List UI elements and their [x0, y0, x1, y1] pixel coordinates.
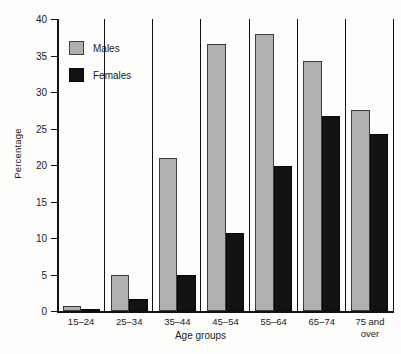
y-tick-mark: [51, 56, 57, 57]
legend-swatch-males-icon: [69, 41, 84, 55]
bar-males: [63, 306, 82, 311]
x-axis-title: Age groups: [0, 330, 401, 341]
bar-females: [370, 134, 389, 311]
group-separator: [297, 19, 298, 311]
x-tick-label: 65–74: [298, 316, 346, 328]
bar-males: [255, 34, 274, 311]
bar-males: [351, 110, 370, 311]
group-separator: [152, 19, 153, 311]
legend-label-females: Females: [93, 70, 131, 81]
legend-swatch-females-icon: [69, 68, 84, 82]
y-axis-line: [57, 19, 59, 311]
bar-males: [111, 275, 130, 312]
bar-females: [274, 166, 293, 311]
y-tick-mark: [51, 311, 57, 312]
legend: Males Females: [69, 41, 131, 95]
y-tick-mark: [51, 165, 57, 166]
group-separator: [200, 19, 201, 311]
y-tick-label: 40: [7, 14, 47, 25]
bar-females: [226, 233, 245, 311]
x-tick-label: 35–44: [153, 316, 201, 328]
bar-females: [177, 275, 196, 311]
x-tick-label: 15–24: [57, 316, 105, 328]
y-tick-label: 20: [7, 160, 47, 171]
legend-item-females: Females: [69, 68, 131, 82]
legend-label-males: Males: [93, 43, 120, 54]
y-tick-mark: [51, 19, 57, 20]
y-tick-mark: [51, 275, 57, 276]
x-tick-label: 55–64: [250, 316, 298, 328]
bar-males: [207, 44, 226, 311]
group-separator: [249, 19, 250, 311]
bar-females: [81, 309, 100, 311]
y-tick-label: 0: [7, 306, 47, 317]
x-tick-label: 25–34: [105, 316, 153, 328]
y-tick-mark: [51, 92, 57, 93]
bar-chart: Percentage 0510152025303540 15–2425–3435…: [0, 0, 401, 354]
y-tick-label: 5: [7, 269, 47, 280]
bar-males: [159, 158, 178, 311]
bar-females: [129, 299, 148, 311]
bar-females: [322, 116, 341, 311]
y-tick-mark: [51, 202, 57, 203]
y-tick-label: 35: [7, 50, 47, 61]
y-tick-label: 30: [7, 87, 47, 98]
x-tick-label: 45–54: [201, 316, 249, 328]
y-tick-mark: [51, 238, 57, 239]
y-tick-label: 15: [7, 196, 47, 207]
bar-males: [303, 61, 322, 311]
x-axis-line: [57, 311, 394, 313]
y-tick-label: 10: [7, 233, 47, 244]
group-separator: [393, 19, 394, 311]
y-axis-title: Percentage: [12, 109, 23, 199]
y-tick-mark: [51, 129, 57, 130]
group-separator: [345, 19, 346, 311]
legend-item-males: Males: [69, 41, 131, 55]
y-tick-label: 25: [7, 123, 47, 134]
